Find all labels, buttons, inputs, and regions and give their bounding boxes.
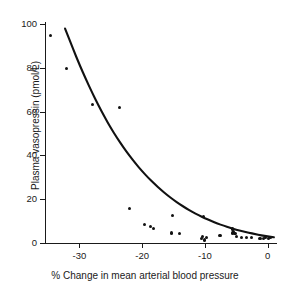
- y-tick-label: 0: [0, 238, 37, 248]
- plot-area: [45, 22, 277, 243]
- data-point: [91, 103, 94, 106]
- data-point: [218, 234, 221, 237]
- data-point: [202, 215, 205, 218]
- data-point: [269, 236, 272, 239]
- data-point: [65, 67, 68, 70]
- data-point: [205, 236, 208, 239]
- x-tick-mark: [268, 243, 269, 248]
- data-point: [240, 236, 243, 239]
- x-tick-mark: [142, 243, 143, 248]
- y-tick-mark: [40, 243, 45, 244]
- x-tick-mark: [205, 243, 206, 248]
- data-point: [152, 227, 155, 230]
- figure-container: 020406080100 -30-20-100 Plasma vasopress…: [0, 0, 290, 292]
- data-point: [245, 236, 248, 239]
- x-axis-label: % Change in mean arterial blood pressure: [0, 270, 290, 281]
- x-tick-label: 0: [248, 251, 288, 261]
- data-point: [235, 235, 238, 238]
- data-point: [143, 223, 146, 226]
- data-point: [128, 207, 131, 210]
- data-point: [170, 231, 173, 234]
- x-tick-label: -10: [185, 251, 225, 261]
- data-point: [118, 106, 121, 109]
- data-point: [171, 214, 174, 217]
- y-axis-label: Plasma vasopressin (pmol/L): [30, 21, 41, 231]
- data-point: [250, 236, 253, 239]
- data-point: [178, 232, 181, 235]
- x-tick-label: -20: [122, 251, 162, 261]
- data-point: [49, 34, 52, 37]
- x-tick-mark: [79, 243, 80, 248]
- x-tick-label: -30: [59, 251, 99, 261]
